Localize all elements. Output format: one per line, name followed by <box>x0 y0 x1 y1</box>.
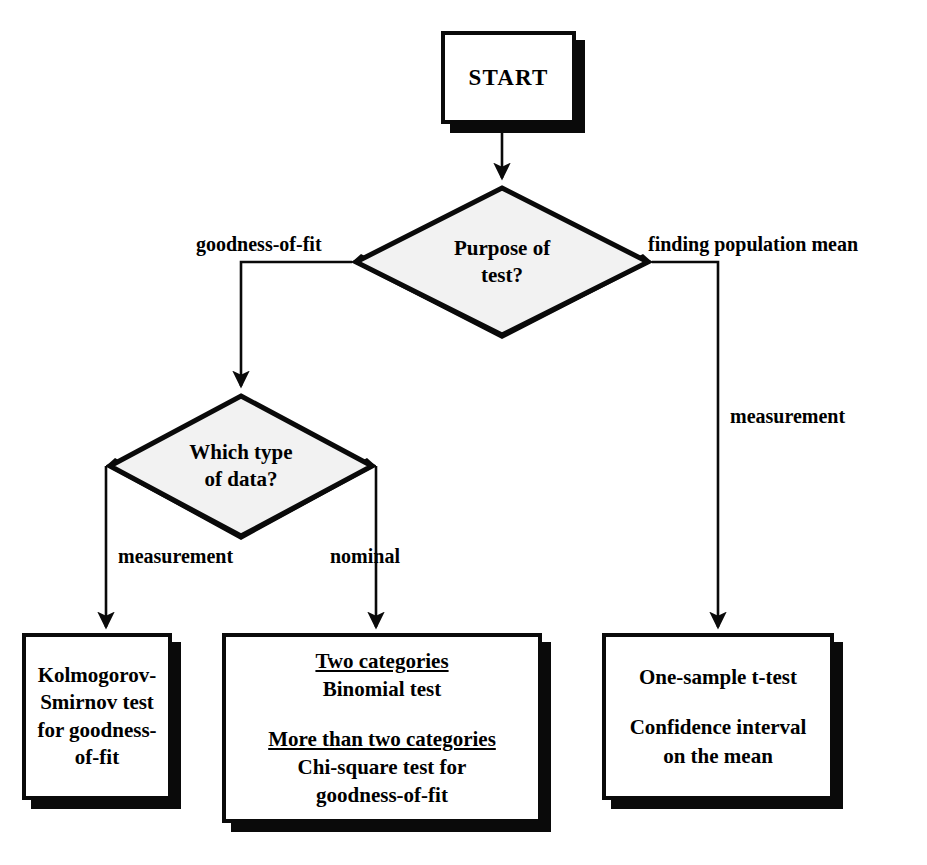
flowchart-canvas: START Purpose of test? Which type of dat… <box>0 0 927 865</box>
node-kolmogorov-smirnov-test[interactable]: Kolmogorov- Smirnov test for goodness- o… <box>22 633 172 800</box>
node-categories-heading-more: More than two categories <box>268 725 496 753</box>
node-which-type-of-data[interactable]: Which type of data? <box>106 392 376 540</box>
diamond-shape <box>106 392 376 540</box>
node-ks-text: Kolmogorov- Smirnov test for goodness- o… <box>26 637 168 796</box>
node-mean-text: One-sample t-test Confidence interval on… <box>606 637 830 796</box>
node-ks-line3: for goodness- <box>37 717 156 744</box>
node-categories-chisquare-line2: goodness-of-fit <box>316 781 448 809</box>
node-categorical-tests[interactable]: Two categories Binomial test More than t… <box>222 633 542 823</box>
node-ks-line4: of-fit <box>75 744 119 771</box>
edge-purpose-to-mean <box>652 262 718 627</box>
node-start[interactable]: START <box>441 31 576 124</box>
node-categories-text: Two categories Binomial test More than t… <box>226 637 538 819</box>
edge-label-measurement-left: measurement <box>118 545 233 568</box>
node-mean-line1: One-sample t-test <box>639 663 797 691</box>
node-start-label: START <box>445 35 572 120</box>
node-mean-tests[interactable]: One-sample t-test Confidence interval on… <box>602 633 834 800</box>
node-ks-line1: Kolmogorov- <box>38 662 157 689</box>
node-categories-chisquare-line1: Chi-square test for <box>298 753 467 781</box>
edge-label-goodness-of-fit: goodness-of-fit <box>196 233 322 256</box>
edge-label-nominal: nominal <box>330 545 400 568</box>
node-purpose-of-test[interactable]: Purpose of test? <box>352 184 652 339</box>
edge-purpose-to-datatype <box>241 262 352 386</box>
node-mean-line2: Confidence interval <box>630 713 807 741</box>
edge-label-finding-population-mean: finding population mean <box>648 233 858 256</box>
node-ks-line2: Smirnov test <box>40 689 154 716</box>
node-categories-binomial: Binomial test <box>323 675 441 703</box>
node-categories-heading-two: Two categories <box>315 647 448 675</box>
node-mean-line3: on the mean <box>663 742 773 770</box>
diamond-shape <box>352 184 652 339</box>
edge-label-measurement-right: measurement <box>730 405 845 428</box>
